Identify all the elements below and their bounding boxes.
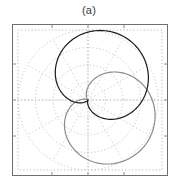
- polar-plot: [12, 24, 168, 176]
- figure-panel: (a): [0, 0, 178, 188]
- polar-plot-canvas: [12, 24, 168, 176]
- figure-caption: (a): [0, 3, 178, 17]
